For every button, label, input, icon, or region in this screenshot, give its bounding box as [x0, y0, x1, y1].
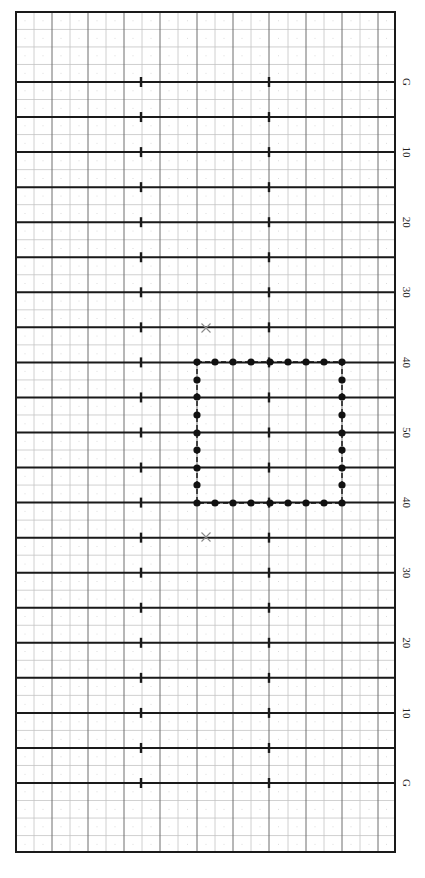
grid-dot [43, 511, 44, 512]
grid-dot [315, 563, 316, 564]
grid-dot [43, 651, 44, 652]
grid-dot [333, 739, 334, 740]
grid-dot [115, 195, 116, 196]
grid-dot [187, 493, 188, 494]
grid-dot [61, 108, 62, 109]
grid-dot [206, 301, 207, 302]
performer-dot [266, 499, 273, 506]
grid-dot [351, 844, 352, 845]
grid-dot [351, 686, 352, 687]
grid-dot [315, 20, 316, 21]
grid-dot [187, 634, 188, 635]
grid-dot [369, 686, 370, 687]
grid-dot [333, 651, 334, 652]
grid-dot [61, 528, 62, 529]
grid-dot [369, 563, 370, 564]
grid-dot [260, 406, 261, 407]
grid-dot [224, 283, 225, 284]
grid-dot [25, 266, 26, 267]
grid-dot [315, 704, 316, 705]
grid-dot [151, 458, 152, 459]
grid-dot [224, 598, 225, 599]
grid-dot [115, 90, 116, 91]
grid-dot [224, 686, 225, 687]
grid-dot [133, 739, 134, 740]
grid-dot [115, 283, 116, 284]
grid-dot [333, 283, 334, 284]
grid-dot [25, 809, 26, 810]
grid-dot [97, 528, 98, 529]
grid-dot [369, 301, 370, 302]
grid-dot [79, 721, 80, 722]
grid-dot [369, 791, 370, 792]
grid-dot [43, 493, 44, 494]
grid-dot [61, 336, 62, 337]
grid-dot [79, 476, 80, 477]
grid-dot [43, 756, 44, 757]
grid-dot [115, 651, 116, 652]
grid-dot [297, 511, 298, 512]
grid-dot [206, 546, 207, 547]
grid-dot [278, 73, 279, 74]
grid-dot [386, 809, 387, 810]
grid-dot [79, 160, 80, 161]
grid-dot [133, 581, 134, 582]
grid-dot [169, 406, 170, 407]
grid-dot [97, 406, 98, 407]
grid-dot [187, 844, 188, 845]
grid-dot [169, 528, 170, 529]
grid-dot [187, 809, 188, 810]
grid-dot [351, 195, 352, 196]
grid-dot [151, 774, 152, 775]
grid-dot [386, 125, 387, 126]
grid-dot [260, 844, 261, 845]
grid-dot [115, 756, 116, 757]
grid-dot [25, 441, 26, 442]
grid-dot [97, 739, 98, 740]
grid-dot [242, 388, 243, 389]
grid-dot [187, 248, 188, 249]
grid-dot [206, 213, 207, 214]
grid-dot [224, 371, 225, 372]
grid-dot [260, 38, 261, 39]
grid-dot [242, 493, 243, 494]
grid-dot [386, 160, 387, 161]
grid-dot [25, 371, 26, 372]
grid-dot [260, 353, 261, 354]
grid-dot [115, 301, 116, 302]
grid-dot [278, 125, 279, 126]
grid-dot [25, 774, 26, 775]
grid-dot [187, 55, 188, 56]
grid-dot [187, 301, 188, 302]
grid-dot [369, 90, 370, 91]
grid-dot [242, 90, 243, 91]
grid-dot [278, 704, 279, 705]
grid-dot [187, 388, 188, 389]
grid-dot [297, 756, 298, 757]
grid-dot [79, 55, 80, 56]
grid-dot [315, 371, 316, 372]
performer-dot [193, 393, 200, 400]
grid-dot [61, 598, 62, 599]
performer-dot [193, 358, 200, 365]
grid-dot [260, 441, 261, 442]
grid-dot [115, 441, 116, 442]
grid-dot [79, 809, 80, 810]
grid-dot [369, 20, 370, 21]
grid-dot [187, 90, 188, 91]
grid-dot [151, 669, 152, 670]
grid-dot [206, 528, 207, 529]
grid-dot [187, 528, 188, 529]
grid-dot [297, 266, 298, 267]
grid-dot [386, 721, 387, 722]
grid-dot [133, 20, 134, 21]
grid-dot [224, 55, 225, 56]
grid-dot [242, 528, 243, 529]
grid-dot [25, 125, 26, 126]
grid-dot [315, 581, 316, 582]
grid-dot [242, 108, 243, 109]
grid-dot [242, 511, 243, 512]
yard-label: 10 [401, 707, 413, 719]
grid-dot [133, 774, 134, 775]
grid-dot [260, 55, 261, 56]
